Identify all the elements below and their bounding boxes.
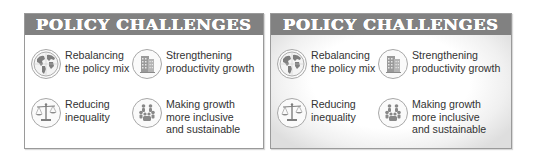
globe-icon (277, 49, 307, 79)
item-rebalancing-policy-mix: Rebalancing the policy mix (31, 49, 129, 79)
policy-challenges-panel-left: POLICY CHALLENGES Rebalancing the policy… (24, 13, 264, 149)
item-strengthening-productivity: Strengthening productivity growth (132, 49, 254, 79)
people-group-icon (132, 98, 162, 128)
item-rebalancing-policy-mix: Rebalancing the policy mix (277, 49, 375, 79)
item-label: Reducing inequality (65, 98, 110, 123)
item-reducing-inequality: Reducing inequality (277, 98, 356, 128)
people-group-icon (378, 98, 408, 128)
item-label: Strengthening productivity growth (412, 49, 500, 74)
item-inclusive-sustainable-growth: Making growth more inclusive and sustain… (132, 98, 240, 136)
item-strengthening-productivity: Strengthening productivity growth (378, 49, 500, 79)
panel-title: POLICY CHALLENGES (283, 15, 499, 34)
panel-header: POLICY CHALLENGES (271, 14, 511, 35)
globe-icon (31, 49, 61, 79)
item-label: Rebalancing the policy mix (65, 49, 129, 74)
policy-challenges-panel-right: POLICY CHALLENGES Rebalancing the policy… (270, 13, 512, 149)
building-icon (132, 49, 162, 79)
item-label: Rebalancing the policy mix (311, 49, 375, 74)
item-label: Making growth more inclusive and sustain… (412, 98, 486, 136)
item-reducing-inequality: Reducing inequality (31, 98, 110, 128)
scales-icon (277, 98, 307, 128)
item-label: Strengthening productivity growth (166, 49, 254, 74)
item-inclusive-sustainable-growth: Making growth more inclusive and sustain… (378, 98, 486, 136)
panel-title: POLICY CHALLENGES (36, 15, 252, 34)
item-label: Reducing inequality (311, 98, 356, 123)
item-label: Making growth more inclusive and sustain… (166, 98, 240, 136)
scales-icon (31, 98, 61, 128)
building-icon (378, 49, 408, 79)
panel-header: POLICY CHALLENGES (25, 14, 263, 35)
